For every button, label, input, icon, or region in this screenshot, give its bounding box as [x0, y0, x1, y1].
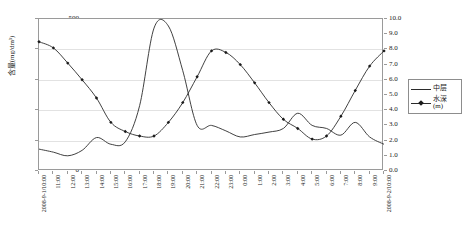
x-axis-tick-label: 1:00 — [257, 175, 263, 186]
x-axis-tick-label: 7:00 — [343, 175, 349, 186]
x-axis-tick-label: 6:00 — [329, 175, 335, 186]
right-axis-tick-mark — [384, 124, 387, 125]
right-axis-tick-mark — [384, 18, 387, 19]
legend-label-water-depth-line2: (m) — [433, 102, 443, 110]
chart-container: 0100200300400500 含量(mg/dm³) 0.01.02.03.0… — [0, 0, 468, 244]
x-axis-tick-label: 9:00 — [372, 175, 378, 186]
x-axis-tick-mark — [52, 171, 53, 174]
x-axis-tick-label: 12:00 — [70, 175, 76, 189]
x-axis-tick-mark — [167, 171, 168, 174]
right-axis-tick-mark — [384, 140, 387, 141]
legend-item-water-depth[interactable]: 水深 (m) — [411, 96, 458, 110]
x-axis-tick-mark — [38, 171, 39, 174]
x-axis-tick-label: 23:00 — [228, 175, 234, 189]
x-axis-tick-mark — [254, 171, 255, 174]
legend-line-marker-icon — [411, 99, 431, 108]
data-point-marker — [224, 51, 227, 54]
chart-legend: 中层 水深 (m) — [408, 79, 462, 114]
x-axis-tick-mark — [239, 171, 240, 174]
plot-area — [38, 18, 383, 170]
x-axis-tick-mark — [110, 171, 111, 174]
x-axis-tick-label: 13:00 — [84, 175, 90, 189]
right-axis-tick-label: 4.0 — [389, 106, 398, 113]
x-axis-tick-mark — [225, 171, 226, 174]
series-line-middle-layer — [39, 19, 384, 155]
x-axis-tick-label: 14:00 — [99, 175, 105, 189]
right-axis-tick-label: 5.0 — [389, 91, 398, 98]
x-axis-tick-mark — [139, 171, 140, 174]
x-axis-tick-label: 8:00 — [357, 175, 363, 186]
data-point-marker — [195, 75, 198, 78]
x-axis-tick-label: 0:00 — [242, 175, 248, 186]
data-point-marker — [37, 40, 40, 43]
right-axis-tick-mark — [384, 48, 387, 49]
right-axis-tick-label: 8.0 — [389, 45, 398, 52]
right-axis-tick-mark — [384, 155, 387, 156]
right-axis-tick-label: 2.0 — [389, 136, 398, 143]
x-axis-tick-label: 21:00 — [199, 175, 205, 189]
x-axis-tick-mark — [326, 171, 327, 174]
x-axis-tick-label: 22:00 — [214, 175, 220, 189]
data-point-marker — [124, 130, 127, 133]
right-axis-tick-label: 6.0 — [389, 75, 398, 82]
x-axis-tick-label: 5:00 — [314, 175, 320, 186]
right-axis-tick-label: 1.0 — [389, 151, 398, 158]
right-axis-tick-mark — [384, 94, 387, 95]
right-axis-tick-mark — [384, 170, 387, 171]
x-axis-tick-mark — [268, 171, 269, 174]
x-axis-tick-mark — [297, 171, 298, 174]
x-axis-tick-mark — [96, 171, 97, 174]
x-axis-tick-label: 20:00 — [185, 175, 191, 189]
x-axis-tick-mark — [340, 171, 341, 174]
x-axis: 2008-9-1/10:0011:0012:0013:0014:0015:001… — [38, 171, 383, 244]
x-axis-tick-mark — [211, 171, 212, 174]
right-axis-tick-label: 3.0 — [389, 121, 398, 128]
x-axis-tick-mark — [124, 171, 125, 174]
right-axis-tick-label: 9.0 — [389, 30, 398, 37]
x-axis-tick-label: 19:00 — [170, 175, 176, 189]
x-axis-tick-label: 15:00 — [113, 175, 119, 189]
x-axis-tick-mark — [369, 171, 370, 174]
x-axis-tick-mark — [153, 171, 154, 174]
legend-line-icon — [411, 85, 431, 94]
x-axis-tick-mark — [182, 171, 183, 174]
x-axis-tick-label: 16:00 — [127, 175, 133, 189]
right-axis-tick-mark — [384, 109, 387, 110]
x-axis-tick-mark — [196, 171, 197, 174]
x-axis-tick-label: 4:00 — [300, 175, 306, 186]
x-axis-tick-label: 2008-9-2/10:00 — [386, 175, 392, 212]
right-axis-tick-label: 0.0 — [389, 167, 398, 174]
right-axis-tick-mark — [384, 64, 387, 65]
right-axis-tick-label: 10.0 — [389, 15, 401, 22]
legend-label-middle-layer: 中层 — [433, 85, 447, 93]
right-axis-tick-mark — [384, 79, 387, 80]
right-axis-tick-label: 7.0 — [389, 60, 398, 67]
data-point-marker — [138, 134, 141, 137]
x-axis-tick-label: 11:00 — [55, 175, 61, 188]
x-axis-tick-mark — [311, 171, 312, 174]
data-point-marker — [310, 137, 313, 140]
left-y-axis-title: 含量(mg/dm³) — [8, 13, 16, 99]
x-axis-tick-mark — [67, 171, 68, 174]
x-axis-tick-mark — [282, 171, 283, 174]
legend-label-water-depth: 水深 (m) — [433, 96, 447, 111]
right-axis-tick-mark — [384, 33, 387, 34]
series-layer — [39, 19, 384, 171]
x-axis-tick-mark — [354, 171, 355, 174]
x-axis-tick-label: 2:00 — [271, 175, 277, 186]
x-axis-tick-mark — [383, 171, 384, 174]
x-axis-tick-mark — [81, 171, 82, 174]
x-axis-tick-label: 17:00 — [142, 175, 148, 189]
x-axis-tick-label: 18:00 — [156, 175, 162, 189]
x-axis-tick-label: 2008-9-1/10:00 — [41, 175, 47, 212]
x-axis-tick-label: 3:00 — [285, 175, 291, 186]
